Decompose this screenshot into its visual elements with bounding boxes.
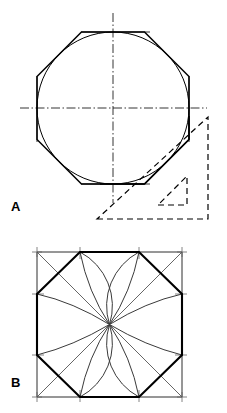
figure-a-octagon-about-circle bbox=[0, 0, 227, 230]
octagon-facet-lower-right bbox=[145, 140, 190, 185]
drawing-sheet: A bbox=[0, 0, 227, 413]
figure-a-label: A bbox=[11, 200, 20, 213]
figure-b-octagon-in-square bbox=[0, 230, 227, 413]
set-square-outline bbox=[97, 117, 208, 219]
corner-quadrant-arcs bbox=[80, 252, 139, 397]
figure-b-label: B bbox=[11, 376, 20, 389]
set-square-inner-cutout bbox=[158, 176, 187, 205]
